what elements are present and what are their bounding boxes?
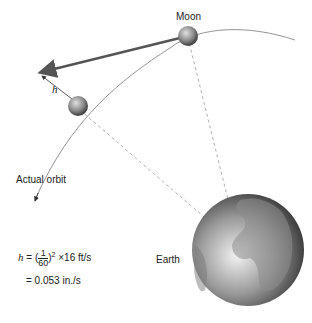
actual-moon-sphere <box>68 96 88 116</box>
moon-label: Moon <box>176 11 201 22</box>
earth-globe <box>192 194 304 306</box>
formula-result: = 0.053 in./s <box>26 274 91 288</box>
formula-times: ×16 ft/s <box>56 252 92 263</box>
moon-sphere <box>178 26 198 46</box>
fraction: 160 <box>38 249 48 268</box>
formula: h = (160)2 ×16 ft/s = 0.053 in./s <box>18 248 91 288</box>
tangent-arrow <box>42 36 188 72</box>
earth-label: Earth <box>156 254 180 265</box>
actual-orbit-label: Actual orbit <box>16 174 66 185</box>
fraction-denominator: 60 <box>38 259 48 268</box>
formula-line-1: h = (160)2 ×16 ft/s <box>18 248 91 268</box>
formula-eq: = ( <box>24 252 39 263</box>
h-label: h <box>52 83 58 95</box>
